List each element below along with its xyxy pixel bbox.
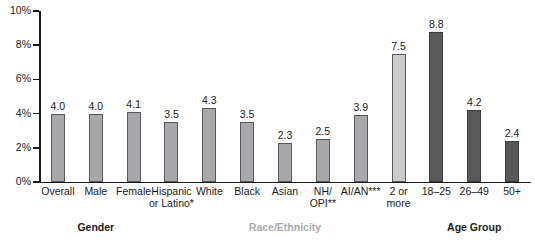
- bar-value-label: 8.8: [416, 19, 456, 30]
- bar: [89, 114, 103, 182]
- bar-value-label: 4.0: [76, 101, 116, 112]
- bar: [392, 54, 406, 182]
- group-label: Race/Ethnicity: [215, 221, 355, 233]
- bar: [467, 110, 481, 182]
- bar: [429, 32, 443, 182]
- bar: [354, 115, 368, 182]
- group-label: Gender: [26, 221, 166, 233]
- bar-value-label: 2.5: [303, 126, 343, 137]
- bar: [202, 108, 216, 182]
- bar-value-label: 3.5: [151, 109, 191, 120]
- bars-layer: 4.04.04.13.54.33.52.32.53.97.58.84.22.4: [0, 11, 535, 182]
- bar-value-label: 4.3: [189, 95, 229, 106]
- bar-value-label: 7.5: [379, 41, 419, 52]
- bar-value-label: 4.1: [114, 99, 154, 110]
- x-axis-labels: OverallMaleFemaleHispanic or Latino*Whit…: [0, 186, 535, 214]
- bar-chart: 0%2%4%6%8%10% 4.04.04.13.54.33.52.32.53.…: [0, 0, 535, 245]
- bar-value-label: 4.2: [454, 97, 494, 108]
- bar: [127, 112, 141, 182]
- bar-value-label: 4.0: [38, 101, 78, 112]
- bar-value-label: 3.5: [227, 109, 267, 120]
- group-labels: GenderRace/EthnicityAge Group: [0, 221, 535, 241]
- bar-value-label: 2.3: [265, 130, 305, 141]
- bar: [316, 139, 330, 182]
- bar-value-label: 2.4: [492, 128, 532, 139]
- bar: [278, 143, 292, 182]
- bar: [240, 122, 254, 182]
- bar: [51, 114, 65, 182]
- bar: [505, 141, 519, 182]
- x-axis-label: 50+: [486, 186, 535, 198]
- group-label: Age Group: [404, 221, 535, 233]
- bar: [164, 122, 178, 182]
- bar-value-label: 3.9: [341, 102, 381, 113]
